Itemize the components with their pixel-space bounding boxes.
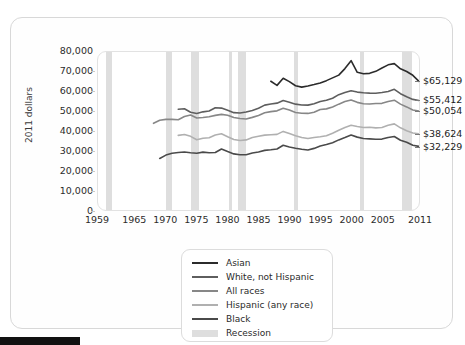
y-tick-label: 10,000 <box>41 185 93 196</box>
y-tick-mark <box>91 211 95 212</box>
plot-area <box>97 51 420 211</box>
legend-swatch-icon <box>192 290 218 292</box>
x-tick-label: 2005 <box>363 214 403 225</box>
legend-item-asian[interactable]: Asian <box>182 256 332 270</box>
y-tick-mark <box>91 71 95 72</box>
y-tick-label: 60,000 <box>41 85 93 96</box>
legend-item-hispanic-any-race[interactable]: Hispanic (any race) <box>182 298 332 312</box>
series-line-all-races <box>154 100 419 123</box>
y-tick-mark <box>91 111 95 112</box>
legend-swatch-icon <box>192 276 218 278</box>
legend-item-all-races[interactable]: All races <box>182 284 332 298</box>
series-end-tick <box>415 111 420 112</box>
y-tick-label: 40,000 <box>41 125 93 136</box>
legend-label: Hispanic (any race) <box>226 300 313 310</box>
series-end-label: $65,129 <box>423 75 462 86</box>
y-tick-mark <box>91 131 95 132</box>
legend-item-black[interactable]: Black <box>182 312 332 326</box>
y-tick-label: 50,000 <box>41 105 93 116</box>
series-line-hispanic-any-race <box>178 124 419 141</box>
legend-item-white-not-hispanic[interactable]: White, not Hispanic <box>182 270 332 284</box>
y-tick-mark <box>91 151 95 152</box>
series-end-labels: $65,129$55,412$50,054$38,624$32,229 <box>421 18 465 218</box>
legend-label: Asian <box>226 258 251 268</box>
y-axis-ticks: 80,00070,00060,00050,00040,00030,00020,0… <box>33 18 93 345</box>
legend-swatch-icon <box>192 262 218 264</box>
series-lines-layer <box>98 52 419 210</box>
legend-item-recession[interactable]: Recession <box>182 326 332 340</box>
legend-label: Black <box>226 314 250 324</box>
series-line-white-not-hispanic <box>178 89 419 113</box>
legend-label: Recession <box>226 328 271 338</box>
series-line-asian <box>271 61 419 87</box>
y-tick-label: 70,000 <box>41 65 93 76</box>
series-end-tick <box>415 147 420 148</box>
x-tick-label: 1959 <box>77 214 117 225</box>
y-tick-mark <box>91 171 95 172</box>
chart-legend: AsianWhite, not HispanicAll racesHispani… <box>181 249 333 342</box>
legend-label: White, not Hispanic <box>226 272 314 282</box>
series-end-tick <box>415 100 420 101</box>
series-end-label: $55,412 <box>423 94 462 105</box>
series-end-tick <box>415 134 420 135</box>
series-end-label: $32,229 <box>423 141 462 152</box>
series-end-label: $50,054 <box>423 105 462 116</box>
x-axis-ticks: 1959196519701975198019851990199520002005… <box>11 214 465 232</box>
y-tick-label: 80,000 <box>41 45 93 56</box>
series-end-label: $38,624 <box>423 128 462 139</box>
series-end-tick <box>415 81 420 82</box>
legend-swatch-icon <box>192 318 218 320</box>
legend-swatch-icon <box>192 304 218 306</box>
y-tick-label: 20,000 <box>41 165 93 176</box>
chart-card: 2011 dollars 80,00070,00060,00050,00040,… <box>10 17 453 329</box>
y-tick-mark <box>91 191 95 192</box>
bottom-black-bar <box>0 337 80 345</box>
legend-swatch-icon <box>192 330 218 337</box>
y-tick-label: 30,000 <box>41 145 93 156</box>
y-tick-mark <box>91 91 95 92</box>
legend-label: All races <box>226 286 264 296</box>
